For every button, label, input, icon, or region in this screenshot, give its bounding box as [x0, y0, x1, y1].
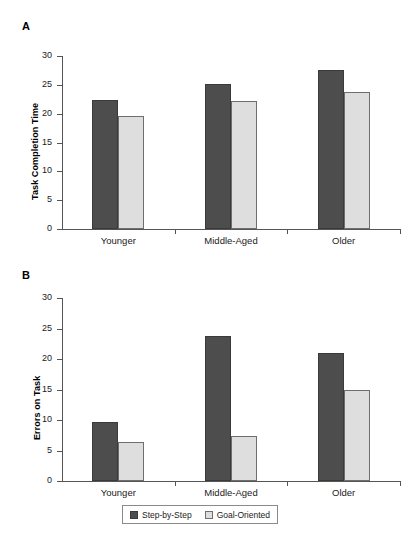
- x-tick: [287, 229, 288, 234]
- panel-a: A Task Completion Time 051015202530 Youn…: [0, 0, 406, 255]
- legend-label-step-by-step: Step-by-Step: [142, 510, 192, 520]
- y-tick-label: 0: [24, 224, 52, 233]
- panel-a-plot-area: 051015202530: [62, 56, 400, 229]
- y-tick: [57, 298, 62, 299]
- panel-b-x-axis-line: [62, 481, 400, 482]
- x-tick-label: Younger: [68, 487, 168, 498]
- y-tick-label: 0: [24, 476, 52, 485]
- x-tick-label: Older: [294, 235, 394, 246]
- x-tick: [287, 481, 288, 486]
- bar-goal-oriented-older: [344, 92, 370, 229]
- panel-b-plot-area: 051015202530: [62, 298, 400, 481]
- bar-goal-oriented-younger: [118, 116, 144, 229]
- y-tick: [57, 329, 62, 330]
- bar-goal-oriented-younger: [118, 442, 144, 481]
- legend-swatch-goal-oriented: [205, 511, 213, 519]
- x-tick-label: Younger: [68, 235, 168, 246]
- x-tick-label: Older: [294, 487, 394, 498]
- bar-step-by-step-older: [318, 353, 344, 481]
- y-tick-label: 15: [24, 138, 52, 147]
- y-tick-label: 20: [24, 354, 52, 363]
- y-tick-label: 5: [24, 446, 52, 455]
- bar-goal-oriented-middle-aged: [231, 101, 257, 229]
- bar-goal-oriented-middle-aged: [231, 436, 257, 481]
- panel-a-x-axis-line: [62, 229, 400, 230]
- legend-swatch-step-by-step: [130, 511, 138, 519]
- y-tick-label: 20: [24, 109, 52, 118]
- y-tick-label: 25: [24, 324, 52, 333]
- y-tick-label: 10: [24, 166, 52, 175]
- x-tick: [400, 481, 401, 486]
- bar-step-by-step-younger: [92, 422, 118, 481]
- y-tick-label: 15: [24, 385, 52, 394]
- chart-legend: Step-by-Step Goal-Oriented: [122, 505, 278, 524]
- bar-step-by-step-middle-aged: [205, 84, 231, 229]
- x-tick: [175, 481, 176, 486]
- bar-step-by-step-middle-aged: [205, 336, 231, 481]
- y-tick: [57, 171, 62, 172]
- bar-step-by-step-older: [318, 70, 344, 229]
- panel-b-y-axis-line: [62, 298, 63, 481]
- y-tick: [57, 481, 62, 482]
- y-tick-label: 25: [24, 80, 52, 89]
- y-tick: [57, 114, 62, 115]
- y-tick: [57, 229, 62, 230]
- y-tick-label: 5: [24, 195, 52, 204]
- y-tick: [57, 200, 62, 201]
- figure-two-panel-bar-chart: A Task Completion Time 051015202530 Youn…: [0, 0, 406, 540]
- x-tick: [175, 229, 176, 234]
- legend-item-goal-oriented: Goal-Oriented: [205, 510, 270, 520]
- y-tick: [57, 390, 62, 391]
- bar-goal-oriented-older: [344, 390, 370, 481]
- y-tick: [57, 143, 62, 144]
- y-tick-label: 30: [24, 51, 52, 60]
- y-tick: [57, 359, 62, 360]
- y-tick-label: 30: [24, 293, 52, 302]
- panel-a-y-axis-line: [62, 56, 63, 229]
- panel-b-letter: B: [22, 269, 30, 281]
- panel-a-letter: A: [22, 20, 30, 32]
- legend-item-step-by-step: Step-by-Step: [130, 510, 192, 520]
- x-tick: [400, 229, 401, 234]
- y-tick: [57, 420, 62, 421]
- legend-label-goal-oriented: Goal-Oriented: [217, 510, 270, 520]
- y-tick: [57, 85, 62, 86]
- y-tick: [57, 56, 62, 57]
- y-tick-label: 10: [24, 415, 52, 424]
- x-tick-label: Middle-Aged: [181, 487, 281, 498]
- bar-step-by-step-younger: [92, 100, 118, 229]
- x-tick-label: Middle-Aged: [181, 235, 281, 246]
- y-tick: [57, 451, 62, 452]
